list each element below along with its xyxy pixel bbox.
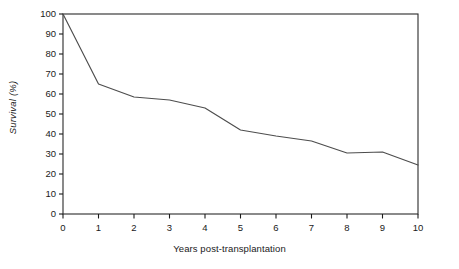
y-tick-label: 10 — [45, 188, 56, 199]
y-tick-label: 60 — [45, 88, 56, 99]
y-axis-ticks: 0102030405060708090100 — [40, 8, 63, 219]
x-tick-label: 1 — [96, 222, 101, 233]
x-axis-label: Years post-transplantation — [0, 243, 459, 254]
y-tick-label: 70 — [45, 68, 56, 79]
y-tick-label: 30 — [45, 148, 56, 159]
chart-svg: 0102030405060708090100 012345678910 — [0, 0, 459, 269]
x-tick-label: 8 — [344, 222, 349, 233]
survival-line — [63, 14, 418, 165]
x-tick-label: 3 — [167, 222, 172, 233]
y-tick-label: 80 — [45, 48, 56, 59]
y-tick-label: 20 — [45, 168, 56, 179]
plot-border — [63, 14, 418, 214]
x-tick-label: 5 — [238, 222, 243, 233]
x-tick-label: 10 — [413, 222, 424, 233]
x-tick-label: 9 — [380, 222, 385, 233]
x-tick-label: 4 — [202, 222, 207, 233]
y-tick-label: 0 — [51, 208, 56, 219]
y-tick-label: 100 — [40, 8, 56, 19]
x-tick-label: 7 — [309, 222, 314, 233]
y-tick-label: 40 — [45, 128, 56, 139]
plot-frame — [63, 14, 418, 214]
y-tick-label: 50 — [45, 108, 56, 119]
x-axis-ticks: 012345678910 — [60, 214, 423, 233]
x-tick-label: 0 — [60, 222, 65, 233]
survival-curve-figure: Survival (%) 0102030405060708090100 0123… — [0, 0, 459, 269]
x-tick-label: 6 — [273, 222, 278, 233]
x-tick-label: 2 — [131, 222, 136, 233]
data-series-group — [63, 14, 418, 165]
y-tick-label: 90 — [45, 28, 56, 39]
